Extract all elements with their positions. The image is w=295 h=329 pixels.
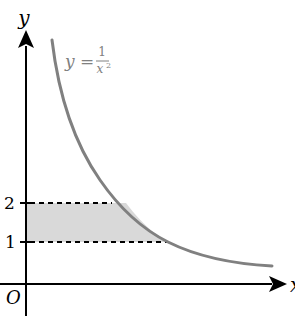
equation-denominator: x xyxy=(97,62,104,76)
curve-equation-label: y = 1 x 2 xyxy=(64,45,111,76)
equation-exponent: 2 xyxy=(106,61,111,70)
tick-label-1: 1 xyxy=(5,232,16,252)
y-axis-label: y xyxy=(17,6,30,30)
equation-lhs: y = xyxy=(64,51,94,71)
equation-numerator: 1 xyxy=(98,45,106,59)
origin-label: O xyxy=(6,287,21,308)
x-axis-label: x xyxy=(290,273,295,297)
tick-label-2: 2 xyxy=(4,193,15,213)
graph-canvas: y x O 2 1 y = 1 x 2 xyxy=(0,0,295,329)
shaded-region xyxy=(26,203,168,242)
y-axis-arrow-icon xyxy=(18,30,34,48)
